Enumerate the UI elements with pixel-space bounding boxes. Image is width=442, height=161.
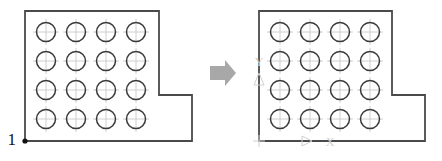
left-center-marks <box>33 19 149 132</box>
figure-canvas: 1 <box>0 0 442 161</box>
axis-hints: Y X <box>253 55 335 149</box>
diagram-svg: 1 <box>0 0 442 161</box>
origin-label: 1 <box>8 130 17 149</box>
origin-tick-icon <box>253 135 265 147</box>
part-outline-after <box>259 11 425 141</box>
arrow-right-icon <box>210 60 236 86</box>
hole-grid-after <box>271 23 380 129</box>
y-axis-label: Y <box>255 55 264 69</box>
hole-grid-before <box>37 23 146 129</box>
right-center-marks <box>267 19 383 132</box>
x-axis-label: X <box>326 135 335 149</box>
origin-point-marker <box>22 138 27 143</box>
left-diagram: 1 <box>8 11 193 149</box>
part-outline-before <box>25 11 192 141</box>
right-diagram: Y X <box>253 11 425 149</box>
